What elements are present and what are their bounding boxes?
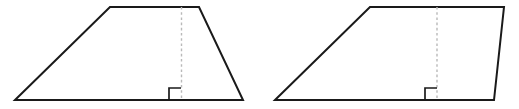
trapezoid-outline	[15, 7, 243, 100]
geometry-diagram	[0, 0, 519, 109]
figure-trapezoid	[15, 7, 243, 100]
figure-canvas	[0, 0, 519, 109]
oblique-trapezoid-outline	[275, 7, 504, 100]
figure-oblique-trapezoid	[275, 7, 504, 100]
